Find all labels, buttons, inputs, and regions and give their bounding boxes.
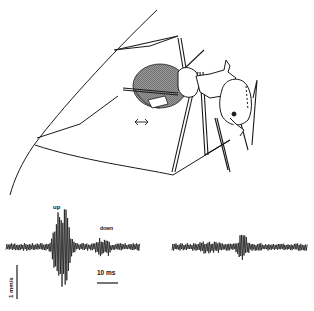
double-arrow-icon [135,119,148,125]
time-scale-label: 10 ms [97,270,115,277]
down-label: down [100,226,113,231]
vibration-trace-right [172,235,307,260]
up-label: up [53,204,60,210]
ant-vibration-figure [0,0,314,311]
amplitude-scale-label: 1 mm/s [8,277,14,298]
leaf-outline [10,10,230,195]
vibration-trace-left [6,209,140,286]
